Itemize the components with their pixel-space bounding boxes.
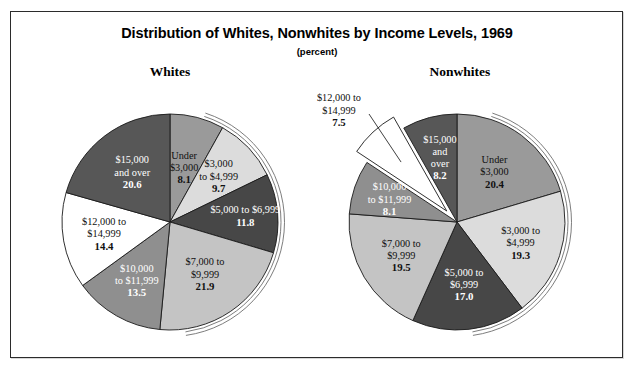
figure-canvas: Distribution of Whites, Nonwhites by Inc… — [0, 0, 634, 371]
pie-charts-svg: Under$3,0008.1$3,000to $4,9999.7$5,000 t… — [0, 0, 634, 371]
pie-chart-nonwhites: Under$3,00020.4$3,000 to$4,99919.3$5,000… — [317, 92, 572, 335]
pie-chart-whites: Under$3,0008.1$3,000to $4,9999.7$5,000 t… — [62, 113, 285, 335]
pie-slice-label: $12,000 to$14,9997.5 — [317, 92, 361, 127]
